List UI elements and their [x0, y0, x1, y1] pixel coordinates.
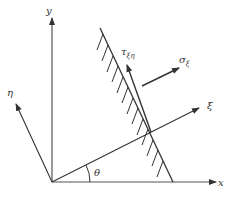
shear-stress-label: τξη: [121, 46, 135, 60]
eta-axis: [16, 104, 52, 182]
hatched-plane: [97, 28, 173, 182]
shear-subscript: ξη: [127, 52, 136, 60]
xi-axis-label: ξ: [207, 100, 213, 111]
x-axis-label: x: [218, 177, 224, 188]
theta-label: θ: [94, 167, 100, 178]
eta-axis-label: η: [7, 87, 13, 98]
y-axis-label: y: [45, 5, 52, 16]
normal-subscript: ξ: [186, 60, 191, 68]
normal-stress-label: σξ: [179, 54, 191, 68]
theta-arc: [86, 165, 90, 182]
normal-stress-arrow: [142, 68, 179, 86]
shear-stress-arrow: [127, 65, 151, 132]
xi-axis: [52, 108, 199, 182]
diagram-canvas: y x η ξ θ τξη σξ: [0, 0, 229, 197]
